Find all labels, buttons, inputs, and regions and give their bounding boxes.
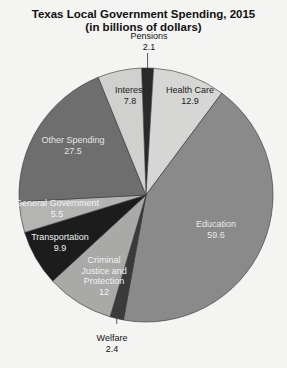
slice-label: Welfare2.4 [97,333,128,354]
pie-chart: Pensions2.1Health Care12.9Education59.6W… [0,0,287,368]
slice-label: Pensions2.1 [130,31,168,52]
